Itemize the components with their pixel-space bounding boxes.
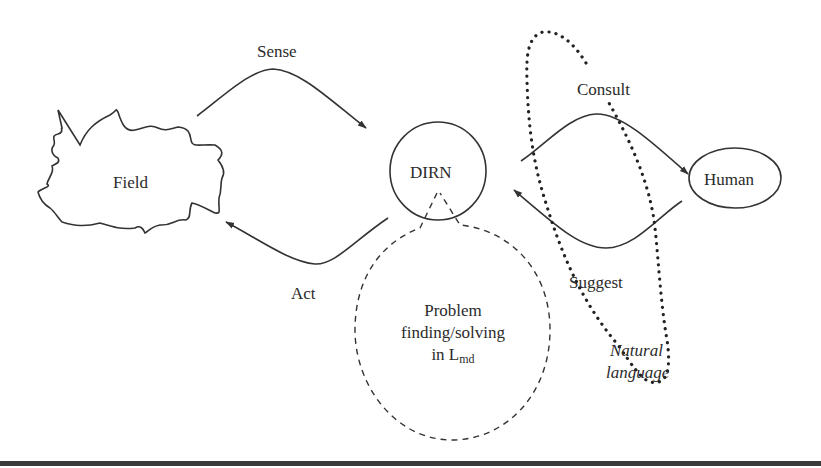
sense-arrow (197, 69, 366, 128)
bottom-rule (0, 461, 821, 466)
natural-language-line2: language (606, 362, 686, 384)
problem-label-subscript: md (459, 352, 474, 366)
natural-language-line1: Natural (606, 340, 686, 362)
diagram-canvas: Field DIRN Human Sense Act Consult Sugge… (0, 0, 821, 468)
problem-label-line1: Problem (373, 300, 533, 322)
act-arrow (226, 218, 388, 264)
problem-solving-label: Problem finding/solving in Lmd (373, 300, 533, 370)
diagram-graphics (0, 0, 821, 468)
dirn-label: DIRN (410, 164, 452, 181)
suggest-label: Suggest (569, 274, 623, 291)
consult-arrow (521, 114, 688, 174)
problem-label-line3: in Lmd (373, 344, 533, 370)
act-label: Act (291, 285, 316, 302)
suggest-arrow (514, 190, 682, 248)
field-shape (38, 110, 224, 233)
problem-label-line2: finding/solving (373, 322, 533, 344)
natural-language-label: Natural language (606, 340, 686, 384)
consult-label: Consult (577, 81, 630, 98)
human-label: Human (704, 171, 754, 188)
sense-label: Sense (257, 43, 297, 60)
field-label: Field (113, 174, 148, 191)
problem-label-line3-prefix: in L (431, 345, 459, 364)
